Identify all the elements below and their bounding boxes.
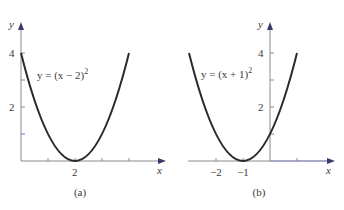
x-tick-label-2: 2 xyxy=(72,166,78,178)
y-axis-arrow-icon xyxy=(267,22,273,30)
y-axis-label: y xyxy=(257,18,263,30)
y-tick-label-4: 4 xyxy=(9,47,15,59)
x-axis-label: x xyxy=(325,164,331,176)
equation-text: y = (x − 2) xyxy=(37,69,85,82)
y-axis-arrow-icon xyxy=(18,22,24,30)
y-axis-label: y xyxy=(8,18,14,30)
x-tick-label-minus-1: −1 xyxy=(237,166,249,178)
panel-b: y 4 2 −2 −1 x y = (x + 1)2 (b) xyxy=(188,18,335,199)
y-ticks xyxy=(270,53,274,134)
equation-label: y = (x + 1)2 xyxy=(201,66,252,81)
equation-label: y = (x − 2)2 xyxy=(37,67,88,82)
panel-a: y 4 2 2 x y = (x − 2)2 (a) xyxy=(8,18,166,199)
equation-exponent: 2 xyxy=(248,66,252,75)
y-tick-label-2: 2 xyxy=(9,101,15,113)
panel-caption: (b) xyxy=(253,186,266,199)
panel-caption: (a) xyxy=(74,186,87,199)
figure: y 4 2 2 x y = (x − 2)2 (a) xyxy=(0,0,344,210)
y-tick-label-2: 2 xyxy=(258,101,264,113)
x-axis-label: x xyxy=(156,164,162,176)
y-tick-label-4: 4 xyxy=(258,47,264,59)
equation-text: y = (x + 1) xyxy=(201,68,249,81)
x-tick-label-minus-2: −2 xyxy=(210,166,222,178)
equation-exponent: 2 xyxy=(84,67,88,76)
